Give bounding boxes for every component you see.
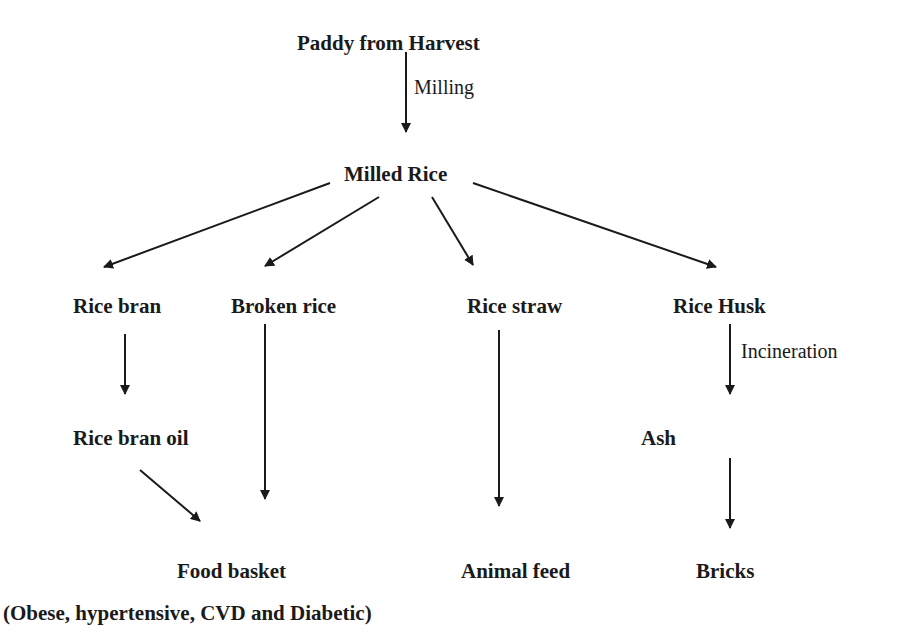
arrow-milled-rice-to-rice-bran	[104, 183, 330, 267]
node-food-basket: Food basket	[177, 561, 286, 582]
arrow-milled-rice-to-rice-husk	[473, 183, 716, 267]
food-basket-note: (Obese, hypertensive, CVD and Diabetic)	[3, 603, 372, 624]
node-rice-bran: Rice bran	[73, 296, 161, 317]
arrow-oil-to-food-basket	[140, 470, 200, 521]
node-bricks: Bricks	[696, 561, 754, 582]
arrow-milled-rice-to-broken-rice	[265, 197, 379, 266]
label-incineration: Incineration	[741, 341, 838, 361]
arrow-milled-rice-to-rice-straw	[432, 197, 473, 265]
node-rice-straw: Rice straw	[467, 296, 562, 317]
node-milled-rice: Milled Rice	[344, 164, 447, 185]
node-paddy-from-harvest: Paddy from Harvest	[297, 33, 480, 54]
label-milling: Milling	[414, 77, 474, 97]
node-ash: Ash	[641, 428, 676, 449]
node-rice-husk: Rice Husk	[673, 296, 766, 317]
node-broken-rice: Broken rice	[231, 296, 336, 317]
node-animal-feed: Animal feed	[461, 561, 570, 582]
node-rice-bran-oil: Rice bran oil	[73, 428, 189, 449]
